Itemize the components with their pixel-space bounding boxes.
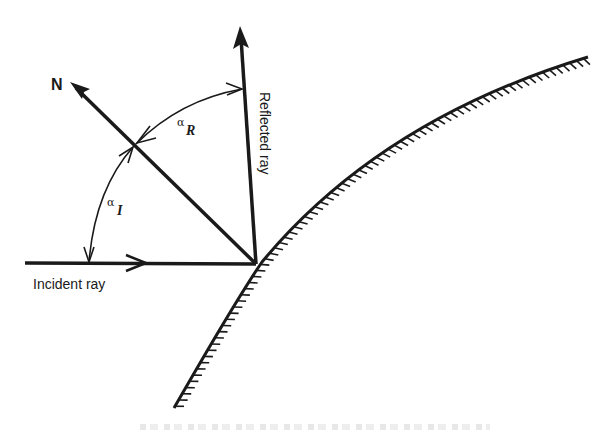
incident-ray-label: Incident ray — [33, 276, 105, 292]
reflected-ray — [233, 26, 256, 264]
subscript-r: R — [185, 123, 195, 138]
angle-reflection-label: α R — [177, 116, 195, 138]
normal-line — [70, 82, 256, 264]
reflecting-surface — [174, 57, 590, 408]
reflection-diagram: N Incident ray Reflected ray α R α I — [0, 0, 611, 430]
subscript-i: I — [116, 203, 123, 218]
diagram-canvas: N Incident ray Reflected ray α R α I — [0, 0, 611, 430]
reflected-ray-label: Reflected ray — [257, 92, 273, 174]
angle-incidence-label: α I — [107, 196, 123, 218]
alpha-symbol: α — [177, 116, 185, 129]
alpha-symbol: α — [107, 196, 115, 209]
normal-label: N — [51, 76, 63, 93]
surface-hatching — [175, 58, 590, 406]
cut-off-caption — [140, 424, 490, 430]
incident-ray — [25, 255, 256, 271]
